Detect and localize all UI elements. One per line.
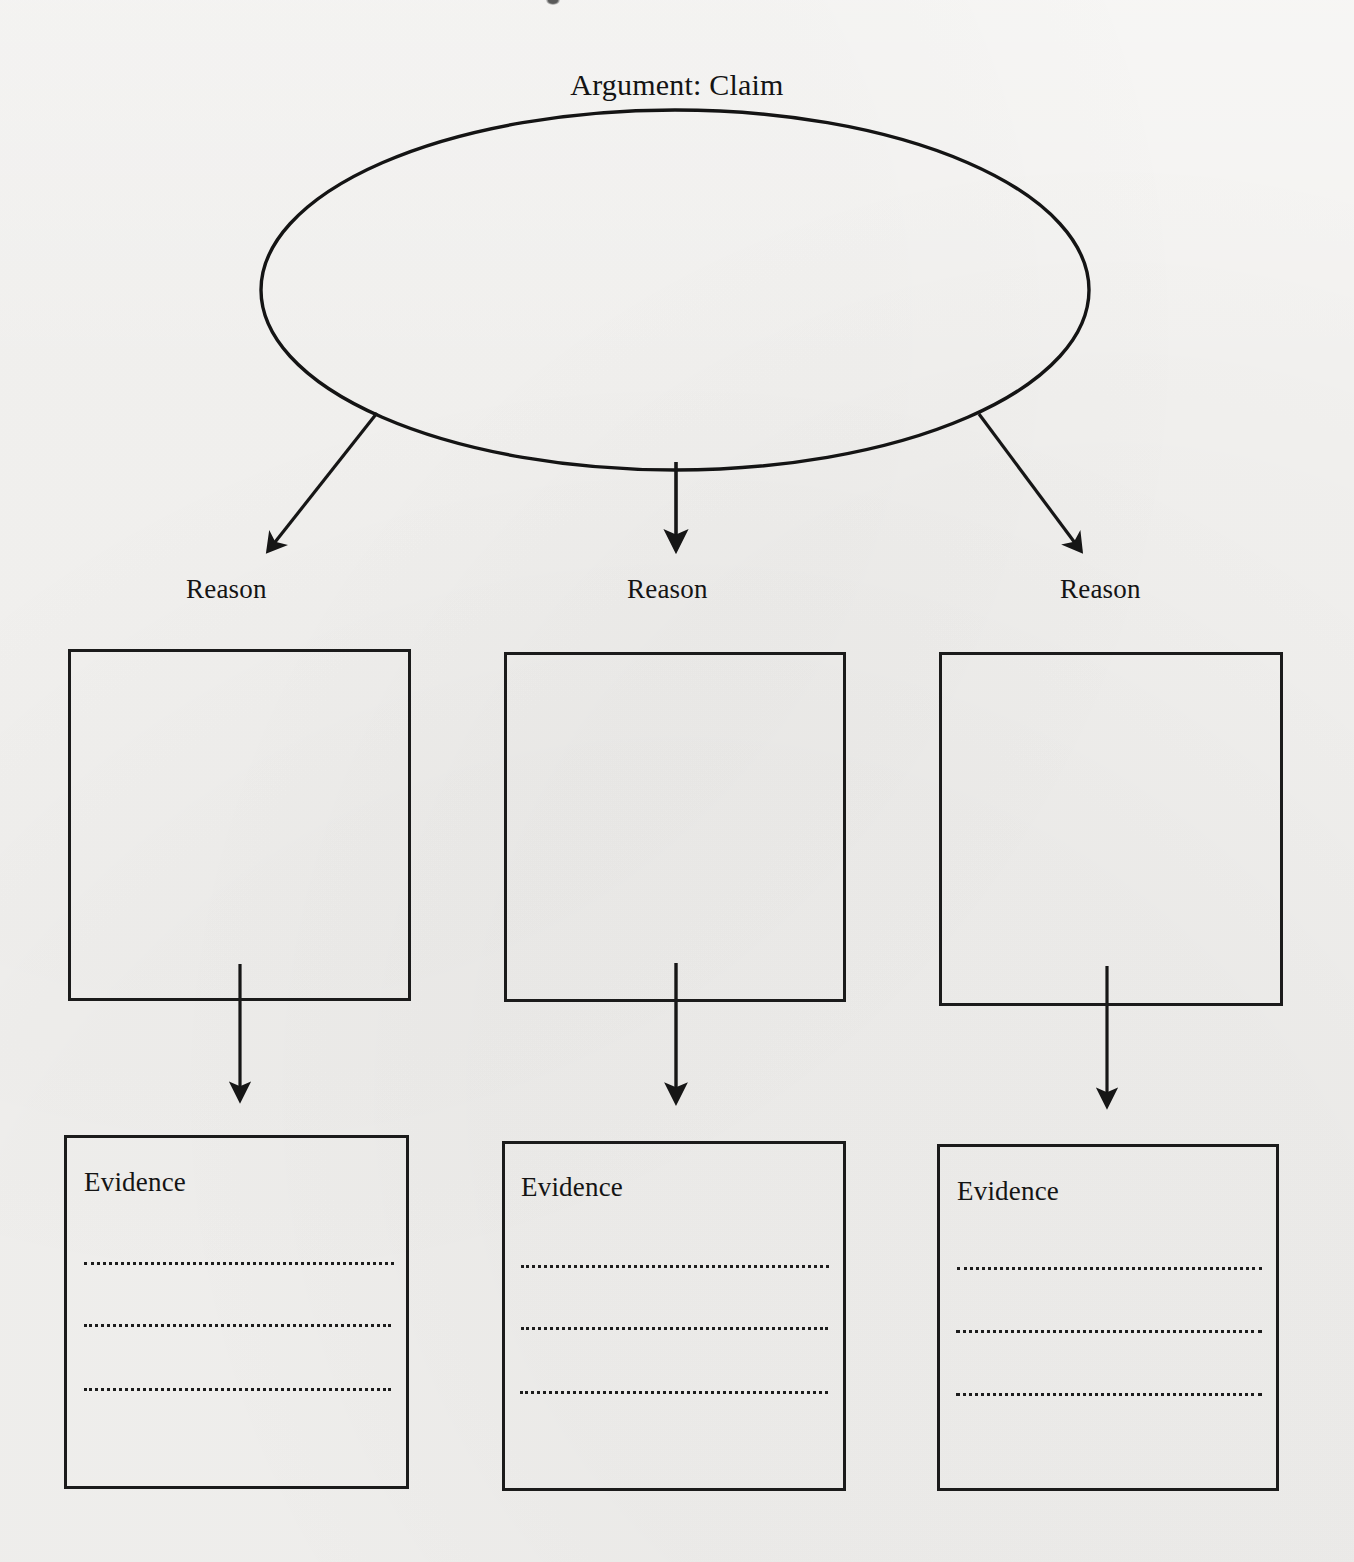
claim-ellipse[interactable] [261, 110, 1089, 470]
reason-box-3[interactable] [939, 652, 1283, 1006]
connector-claim-to-reason-3 [979, 414, 1081, 551]
evidence-2-writing-line-1[interactable] [521, 1265, 829, 1268]
evidence-label-1: Evidence [84, 1167, 186, 1198]
reason-label-1: Reason [186, 574, 267, 605]
reason-box-2[interactable] [504, 652, 846, 1002]
evidence-3-writing-line-1[interactable] [957, 1267, 1262, 1270]
evidence-3-writing-line-2[interactable] [956, 1330, 1262, 1333]
evidence-label-2: Evidence [521, 1172, 623, 1203]
argument-organizer-page: Argument: Claim Reason Reason Reason Evi… [0, 0, 1354, 1562]
evidence-3-writing-line-3[interactable] [956, 1393, 1262, 1396]
reason-label-3: Reason [1060, 574, 1141, 605]
evidence-2-writing-line-3[interactable] [520, 1391, 828, 1394]
evidence-2-writing-line-2[interactable] [521, 1327, 828, 1330]
evidence-1-writing-line-2[interactable] [84, 1324, 391, 1327]
reason-box-1[interactable] [68, 649, 411, 1001]
page-title: Argument: Claim [0, 68, 1354, 102]
evidence-label-3: Evidence [957, 1176, 1059, 1207]
evidence-1-writing-line-1[interactable] [84, 1262, 394, 1265]
evidence-1-writing-line-3[interactable] [84, 1388, 391, 1391]
reason-label-2: Reason [627, 574, 708, 605]
connector-claim-to-reason-1 [268, 413, 377, 551]
